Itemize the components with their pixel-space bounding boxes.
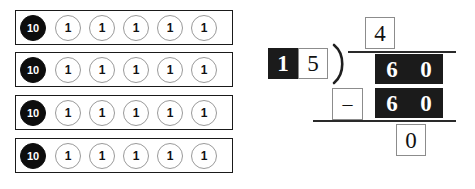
minus-sign-icon: – bbox=[332, 88, 363, 120]
dividend-digit: 6 bbox=[375, 54, 409, 84]
one-chip: 1 bbox=[89, 57, 115, 83]
base-ten-bar-row: 10 1 1 1 1 1 bbox=[15, 52, 233, 87]
ten-chip: 10 bbox=[20, 100, 46, 126]
base-ten-bar-row: 10 1 1 1 1 1 bbox=[15, 138, 233, 173]
one-chip: 1 bbox=[89, 143, 115, 169]
remainder-digit: 0 bbox=[396, 124, 426, 156]
subtraction-rule bbox=[313, 120, 456, 122]
one-chip: 1 bbox=[55, 100, 81, 126]
one-chip: 1 bbox=[89, 100, 115, 126]
divisor-digit: 1 bbox=[268, 48, 298, 79]
one-chip: 1 bbox=[123, 57, 149, 83]
one-chip: 1 bbox=[191, 143, 217, 169]
ten-chip: 10 bbox=[20, 57, 46, 83]
division-vinculum bbox=[348, 51, 456, 53]
base-ten-bar-row: 10 1 1 1 1 1 bbox=[15, 95, 233, 130]
subtrahend-digit: 0 bbox=[409, 88, 443, 118]
ten-chip: 10 bbox=[20, 143, 46, 169]
divisor-digit: 5 bbox=[298, 48, 328, 79]
one-chip: 1 bbox=[157, 57, 183, 83]
subtrahend-digit: 6 bbox=[375, 88, 409, 118]
dividend-digit: 0 bbox=[409, 54, 443, 84]
base-ten-bars-panel: 10 1 1 1 1 1 10 1 1 1 1 1 10 1 1 1 1 1 1… bbox=[0, 0, 245, 189]
division-bracket-icon bbox=[331, 43, 351, 85]
one-chip: 1 bbox=[55, 57, 81, 83]
one-chip: 1 bbox=[157, 100, 183, 126]
one-chip: 1 bbox=[123, 15, 149, 41]
one-chip: 1 bbox=[55, 143, 81, 169]
one-chip: 1 bbox=[191, 100, 217, 126]
one-chip: 1 bbox=[191, 57, 217, 83]
quotient-digit: 4 bbox=[365, 17, 395, 49]
base-ten-bar-row: 10 1 1 1 1 1 bbox=[15, 10, 233, 45]
long-division-panel: 1 5 4 6 0 – 6 0 0 bbox=[245, 0, 475, 189]
one-chip: 1 bbox=[123, 143, 149, 169]
one-chip: 1 bbox=[191, 15, 217, 41]
one-chip: 1 bbox=[157, 143, 183, 169]
one-chip: 1 bbox=[157, 15, 183, 41]
one-chip: 1 bbox=[55, 15, 81, 41]
ten-chip: 10 bbox=[20, 15, 46, 41]
one-chip: 1 bbox=[123, 100, 149, 126]
one-chip: 1 bbox=[89, 15, 115, 41]
